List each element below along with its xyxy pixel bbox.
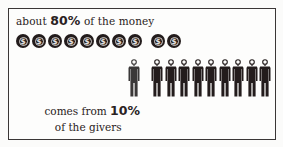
coins-majority: $ $ $ $ $ $ $ $: [16, 34, 142, 49]
headline-prefix: about: [16, 15, 50, 27]
caption-line-1: comes from 10%: [44, 103, 140, 119]
headline-value: 80%: [50, 13, 80, 28]
caption-line-2: of the givers: [44, 119, 140, 135]
dollar-coin-icon: $: [32, 34, 46, 48]
dollar-coin-icon: $: [80, 34, 94, 48]
person-figure-icon: [205, 59, 217, 97]
coins-minority: $ $: [151, 34, 181, 49]
person-figure-icon: [259, 59, 271, 97]
dollar-coin-icon: $: [112, 34, 126, 48]
givers-minority: [128, 59, 140, 97]
person-figure-icon: [232, 59, 244, 97]
dollar-coin-icon: $: [167, 34, 181, 48]
dollar-coin-icon: $: [48, 34, 62, 48]
dollar-coin-icon: $: [96, 34, 110, 48]
caption: comes from 10% of the givers: [44, 103, 140, 135]
person-figure-icon: [165, 59, 177, 97]
dollar-coin-icon: $: [128, 34, 142, 48]
dollar-coin-icon: $: [64, 34, 78, 48]
headline-suffix: of the money: [80, 15, 154, 27]
dollar-coin-icon: $: [151, 34, 165, 48]
person-figure-icon: [128, 59, 140, 97]
person-figure-icon: [219, 59, 231, 97]
person-figure-icon: [178, 59, 190, 97]
givers-majority: [151, 59, 271, 97]
person-figure-icon: [192, 59, 204, 97]
caption-value: 10%: [110, 103, 140, 118]
person-figure-icon: [246, 59, 258, 97]
person-figure-icon: [151, 59, 163, 97]
headline: about 80% of the money: [16, 13, 154, 28]
dollar-coin-icon: $: [16, 34, 30, 48]
caption-prefix: comes from: [44, 105, 110, 117]
